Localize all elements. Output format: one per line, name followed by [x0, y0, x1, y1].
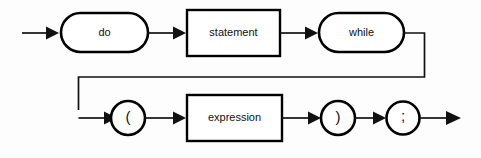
rail-expression-to-rparen	[282, 112, 321, 125]
railroad-diagram: do statement while	[0, 0, 481, 158]
node-do-label: do	[98, 26, 110, 38]
arrow-right-icon	[373, 112, 386, 125]
node-lparen-label: (	[126, 108, 131, 125]
railroad-canvas: do statement while	[0, 0, 481, 158]
node-lparen[interactable]: (	[111, 101, 145, 135]
node-expression-label: expression	[208, 111, 261, 123]
exit-rail	[420, 111, 461, 125]
arrow-right-icon	[46, 27, 59, 40]
arrow-right-icon	[446, 111, 461, 125]
rail-statement-to-while	[280, 27, 318, 40]
node-rparen[interactable]: )	[321, 101, 355, 135]
node-while[interactable]: while	[319, 13, 404, 52]
node-semicolon[interactable]: ;	[387, 102, 420, 135]
node-statement-label: statement	[209, 26, 257, 38]
rail-do-to-statement	[148, 27, 186, 40]
node-do[interactable]: do	[61, 13, 148, 52]
arrow-right-icon	[308, 112, 321, 125]
node-expression[interactable]: expression	[187, 95, 282, 141]
rail-lparen-to-expression	[145, 112, 186, 125]
arrow-right-icon	[173, 27, 186, 40]
node-semicolon-label: ;	[401, 107, 405, 124]
arrow-right-icon	[173, 112, 186, 125]
arrow-right-icon	[305, 27, 318, 40]
node-statement[interactable]: statement	[187, 10, 280, 56]
node-while-label: while	[348, 26, 374, 38]
node-rparen-label: )	[336, 108, 341, 125]
rail-rparen-to-semicolon	[355, 112, 386, 125]
entry-rail	[22, 27, 59, 40]
